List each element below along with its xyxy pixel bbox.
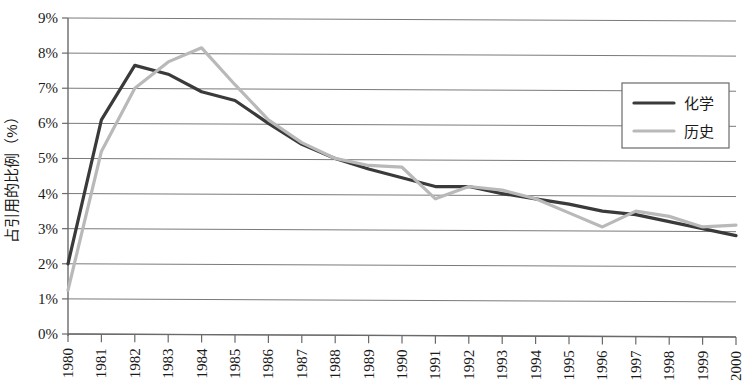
x-tick-label: 1985 (227, 349, 243, 379)
y-tick-label: 7% (38, 80, 58, 96)
x-tick-label: 1987 (294, 349, 310, 380)
y-tick-label: 0% (38, 326, 58, 342)
y-axis-title: 占引用的比例（%） (3, 109, 20, 242)
x-tick-label: 1995 (561, 350, 577, 380)
y-tick-label: 8% (38, 45, 58, 61)
legend-label-2: 历史 (684, 123, 714, 140)
gridline-8 (68, 53, 736, 56)
y-tick-label: 5% (38, 150, 58, 166)
x-tick-labels: 1980198119821983198419851986198719881989… (60, 348, 744, 381)
y-tick-label: 2% (38, 256, 58, 272)
chart-legend: 化学历史 (622, 83, 729, 148)
x-tick-label: 1981 (93, 348, 109, 378)
x-tick-label: 1982 (127, 348, 143, 378)
x-tick-label: 1988 (327, 349, 343, 379)
x-tick-label: 1997 (628, 350, 644, 381)
y-tick-labels: 0%1%2%3%4%5%6%7%8%9% (38, 10, 58, 342)
x-tick-label: 1984 (194, 348, 210, 379)
x-tick-label: 1996 (594, 350, 610, 381)
gridline-9 (68, 18, 736, 21)
y-tick-label: 9% (38, 10, 58, 26)
citation-share-line-chart: 0%1%2%3%4%5%6%7%8%9% 1980198119821983198… (0, 0, 744, 390)
x-tick-label: 1998 (661, 351, 677, 381)
x-tick-label: 2000 (728, 351, 744, 381)
x-tick-label: 1999 (695, 351, 711, 381)
gridline-1 (68, 299, 736, 302)
x-tick-label: 1983 (160, 348, 176, 378)
gridline-5 (68, 158, 736, 161)
x-tick-label: 1980 (60, 348, 76, 378)
gridline-2 (68, 264, 736, 267)
x-tick-label: 1986 (260, 348, 276, 379)
y-axis-title-text: 占引用的比例（%） (3, 109, 20, 242)
x-tick-label: 1990 (394, 350, 410, 380)
x-axis (68, 334, 736, 345)
x-tick-label: 1992 (461, 350, 477, 380)
y-tick-label: 4% (38, 186, 58, 202)
y-tick-label: 1% (38, 291, 58, 307)
gridline-3 (68, 229, 736, 232)
legend-label-1: 化学 (684, 95, 714, 112)
x-tick-label: 1991 (427, 350, 443, 380)
gridline-4 (68, 194, 736, 197)
x-tick-label: 1993 (494, 350, 510, 380)
y-tick-label: 6% (38, 115, 58, 131)
x-tick-label: 1994 (528, 350, 544, 381)
y-tick-label: 3% (38, 221, 58, 237)
x-tick-label: 1989 (361, 349, 377, 379)
chart-canvas: 0%1%2%3%4%5%6%7%8%9% 1980198119821983198… (0, 0, 744, 390)
